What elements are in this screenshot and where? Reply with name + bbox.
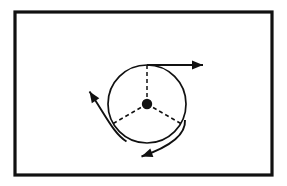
diagram-screenshot — [0, 0, 287, 186]
figure-border — [15, 12, 272, 175]
rotation-center — [142, 99, 152, 109]
physics-diagram — [0, 0, 287, 186]
